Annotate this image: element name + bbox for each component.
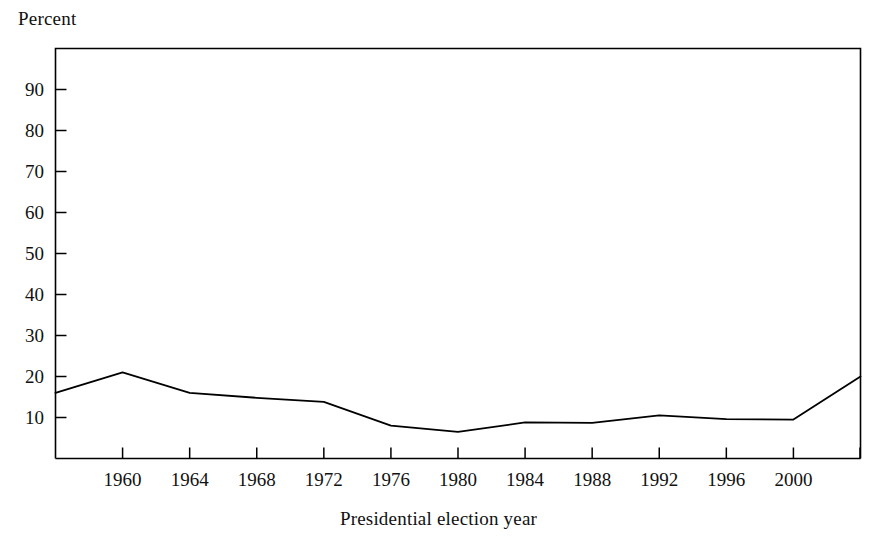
x-tick-label: 1984 xyxy=(490,470,560,489)
x-axis-title: Presidential election year xyxy=(0,508,877,530)
y-tick-marks xyxy=(56,90,67,418)
y-tick-label: 20 xyxy=(4,367,44,386)
x-tick-label: 1968 xyxy=(222,470,292,489)
x-tick-label: 1972 xyxy=(289,470,359,489)
y-tick-label: 30 xyxy=(4,326,44,345)
x-tick-label: 1964 xyxy=(155,470,225,489)
x-tick-label: 1976 xyxy=(356,470,426,489)
y-tick-label: 50 xyxy=(4,244,44,263)
y-tick-label: 10 xyxy=(4,408,44,427)
data-line-group xyxy=(56,372,861,431)
x-tick-label: 1988 xyxy=(557,470,627,489)
x-tick-marks xyxy=(123,448,860,459)
x-tick-label: 1992 xyxy=(624,470,694,489)
axis-frame xyxy=(56,49,861,459)
x-tick-label: 1996 xyxy=(691,470,761,489)
chart-figure: Percent 908070605040302010 1960196419681… xyxy=(0,0,877,551)
y-tick-label: 70 xyxy=(4,162,44,181)
x-tick-label: 1980 xyxy=(423,470,493,489)
data-series-line xyxy=(56,372,861,431)
y-tick-label: 40 xyxy=(4,285,44,304)
y-tick-label: 60 xyxy=(4,203,44,222)
x-tick-label: 1960 xyxy=(88,470,158,489)
x-tick-label: 2000 xyxy=(758,470,828,489)
y-tick-label: 80 xyxy=(4,121,44,140)
y-tick-label: 90 xyxy=(4,80,44,99)
